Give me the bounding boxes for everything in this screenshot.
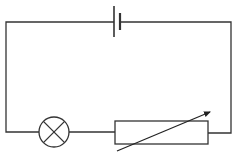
circuit-svg xyxy=(0,0,234,157)
wire-top-right xyxy=(120,22,231,133)
circuit-diagram xyxy=(0,0,234,157)
wires xyxy=(6,22,231,133)
wire-top-left xyxy=(6,22,114,132)
battery-cell-icon xyxy=(114,6,120,37)
variable-resistor-icon xyxy=(115,112,210,151)
lamp-icon xyxy=(39,117,69,147)
